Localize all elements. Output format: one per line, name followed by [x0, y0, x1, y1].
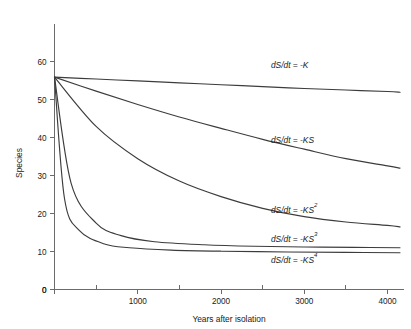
curve-ds-dt-ks4	[55, 77, 401, 253]
x-axis-ticks: 01000200030004000	[42, 285, 397, 306]
curve-ds-dt-k	[55, 77, 401, 92]
x-tick-label: 3000	[295, 297, 314, 306]
x-axis-title: Years after isolation	[192, 314, 266, 324]
y-tick-label: 50	[37, 96, 47, 105]
curve-label: dS/dt = -K	[271, 60, 309, 70]
chart-canvas: 0102030405060 01000200030004000 dS/dt = …	[0, 0, 411, 329]
y-tick-label: 20	[37, 210, 47, 219]
curve-label: dS/dt = -KS2	[271, 202, 318, 215]
x-tick-label: 4000	[378, 297, 397, 306]
y-tick-label: 40	[37, 134, 47, 143]
y-tick-label: 60	[37, 58, 47, 67]
curve-ds-dt-ks2	[55, 77, 401, 227]
curve-ds-dt-ks	[55, 77, 401, 168]
y-tick-label: 10	[37, 248, 47, 257]
curve-group	[55, 77, 401, 253]
x-tick-label-zero: 0	[42, 286, 47, 295]
curve-label: dS/dt = -KS	[271, 135, 314, 145]
curve-label-group: dS/dt = -KdS/dt = -KSdS/dt = -KS2dS/dt =…	[271, 60, 318, 266]
species-decay-chart: 0102030405060 01000200030004000 dS/dt = …	[0, 0, 411, 329]
y-tick-label: 30	[37, 172, 47, 181]
x-tick-label: 2000	[212, 297, 231, 306]
x-tick-label: 1000	[129, 297, 148, 306]
y-axis-ticks: 0102030405060	[37, 58, 54, 295]
y-axis-title: Species	[14, 148, 24, 178]
curve-label: dS/dt = -KS4	[271, 252, 318, 265]
curve-label: dS/dt = -KS3	[271, 231, 318, 244]
